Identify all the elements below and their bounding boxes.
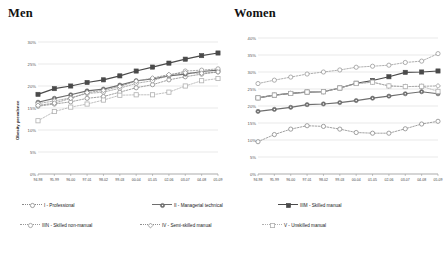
legend-row-top: I - ProfessionalII - Managerial technica…	[0, 202, 448, 218]
legend-item-label: IIIM - Skilled manual	[300, 203, 342, 208]
x-tick-label: 95-99	[50, 178, 59, 182]
x-tick-label: 99-03	[335, 178, 344, 182]
x-tick-label: 99-03	[115, 178, 124, 182]
y-tick-label: 30%	[21, 40, 36, 45]
legend-item[interactable]: II - Managerial technical	[152, 202, 223, 208]
x-tick-label: 97-01	[83, 178, 92, 182]
x-tick-label: 00-04	[352, 178, 361, 182]
legend-item[interactable]: V - Unskilled manual	[262, 222, 326, 228]
x-tick-label: 96-00	[66, 178, 75, 182]
y-tick-label: 0%	[21, 172, 36, 177]
x-tick-label: 02-06	[164, 178, 173, 182]
legend-swatch-icon	[22, 202, 42, 208]
x-tick-label: 03-07	[181, 178, 190, 182]
y-tick-label: 25%	[21, 62, 36, 67]
x-tick-label: 03-07	[401, 178, 410, 182]
y-tick-label: 10%	[241, 138, 256, 143]
y-tick-label: 30%	[241, 70, 256, 75]
plot-area-women: 0%5%10%15%20%25%30%35%40%94-9895-9996-00…	[226, 0, 448, 195]
x-tick-label: 94-98	[254, 178, 263, 182]
x-tick-label: 95-99	[270, 178, 279, 182]
chart-panel-women: Women 0%5%10%15%20%25%30%35%40%94-9895-9…	[226, 0, 448, 195]
legend-item[interactable]: IIIM - Skilled manual	[278, 202, 342, 208]
y-tick-label: 20%	[241, 104, 256, 109]
legend-item-label: I - Professional	[44, 203, 75, 208]
y-tick-label: 5%	[241, 155, 256, 160]
x-tick-label: 02-06	[384, 178, 393, 182]
figure-root: Men Obesity prevalence 0%5%10%15%20%25%3…	[0, 0, 448, 257]
legend-item[interactable]: IIIN - Skilled non-manual	[20, 222, 92, 228]
y-tick-label: 10%	[21, 128, 36, 133]
x-tick-label: 98-02	[99, 178, 108, 182]
y-tick-label: 40%	[241, 36, 256, 41]
legend-swatch-icon	[20, 222, 40, 228]
x-tick-label: 98-02	[319, 178, 328, 182]
x-tick-label: 04-08	[197, 178, 206, 182]
legend-swatch-icon	[262, 222, 282, 228]
chart-svg-women	[226, 0, 448, 195]
legend-swatch-icon	[140, 222, 160, 228]
chart-panel-men: Men Obesity prevalence 0%5%10%15%20%25%3…	[0, 0, 226, 195]
legend-item[interactable]: IV - Semi-skilled manual	[140, 222, 212, 228]
y-tick-label: 20%	[21, 84, 36, 89]
x-tick-label: 97-01	[303, 178, 312, 182]
legend-item[interactable]: I - Professional	[22, 202, 75, 208]
y-tick-label: 25%	[241, 87, 256, 92]
x-tick-label: 01-05	[148, 178, 157, 182]
x-tick-label: 04-08	[417, 178, 426, 182]
x-tick-label: 96-00	[286, 178, 295, 182]
legend-swatch-icon	[278, 202, 298, 208]
y-tick-label: 0%	[241, 172, 256, 177]
legend-item-label: IIIN - Skilled non-manual	[42, 223, 92, 228]
legend-item-label: V - Unskilled manual	[284, 223, 326, 228]
y-tick-label: 15%	[241, 121, 256, 126]
plot-area-men: 0%5%10%15%20%25%30%94-9895-9996-0097-019…	[0, 0, 226, 195]
x-tick-label: 00-04	[132, 178, 141, 182]
y-tick-label: 5%	[21, 150, 36, 155]
y-tick-label: 35%	[241, 53, 256, 58]
legend: I - ProfessionalII - Managerial technica…	[0, 198, 448, 257]
x-tick-label: 05-09	[214, 178, 223, 182]
x-tick-label: 01-05	[368, 178, 377, 182]
chart-svg-men	[0, 0, 226, 195]
x-tick-label: 05-09	[434, 178, 443, 182]
x-tick-label: 94-98	[34, 178, 43, 182]
legend-item-label: II - Managerial technical	[174, 203, 223, 208]
y-tick-label: 15%	[21, 106, 36, 111]
legend-item-label: IV - Semi-skilled manual	[162, 223, 212, 228]
legend-swatch-icon	[152, 202, 172, 208]
legend-row-bottom: IIIN - Skilled non-manualIV - Semi-skill…	[0, 222, 448, 238]
